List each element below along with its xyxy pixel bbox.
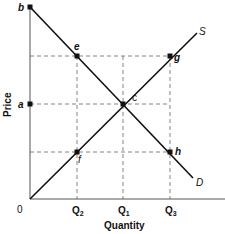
label-demand-D: D — [196, 177, 203, 188]
tick-q3-sub: 3 — [173, 210, 177, 217]
point-h — [168, 150, 173, 155]
point-g — [168, 54, 173, 59]
label-supply-S: S — [199, 26, 206, 37]
label-g: g — [173, 52, 180, 63]
tick-q2-sub: 2 — [80, 210, 84, 217]
point-e — [75, 54, 80, 59]
label-f: f — [78, 154, 82, 165]
y-axis-title: Price — [2, 92, 13, 117]
supply-demand-diagram: b e g a c f h S D 0 Q2 Q1 Q3 Quantity Pr… — [0, 0, 225, 234]
x-axis-title: Quantity — [104, 220, 145, 231]
tick-q1: Q1 — [118, 205, 130, 217]
origin-label: 0 — [17, 204, 23, 215]
tick-q2: Q2 — [72, 205, 84, 217]
label-c: c — [132, 92, 137, 103]
tick-q1-sub: 1 — [126, 210, 130, 217]
point-b — [28, 5, 33, 10]
label-e: e — [74, 41, 80, 52]
point-a — [28, 102, 33, 107]
tick-q3: Q3 — [165, 205, 177, 217]
label-a: a — [18, 99, 24, 110]
point-c — [121, 102, 126, 107]
label-h: h — [175, 146, 181, 157]
label-b: b — [18, 2, 24, 13]
